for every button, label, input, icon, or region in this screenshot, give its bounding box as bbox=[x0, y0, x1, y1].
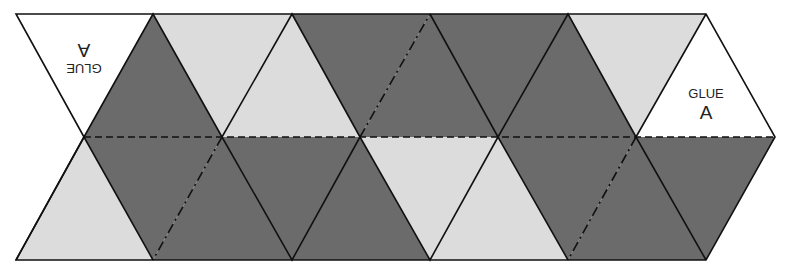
glue-label: GLUE bbox=[688, 86, 724, 101]
glue-letter: A bbox=[700, 102, 713, 123]
icosahedron-net: GLUE A GLUE A bbox=[0, 0, 793, 269]
glue-letter: A bbox=[77, 40, 90, 61]
glue-label: GLUE bbox=[66, 61, 102, 76]
